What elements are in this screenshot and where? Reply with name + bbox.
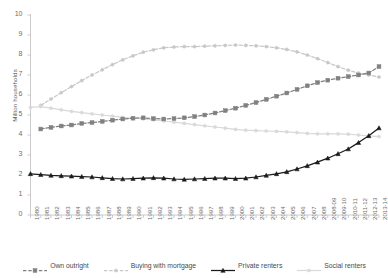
data-point-marker — [172, 45, 175, 48]
data-point-marker — [377, 75, 380, 78]
data-point-marker — [346, 75, 350, 79]
data-point-marker — [193, 115, 197, 119]
chart-legend: Own outrightBuying with mortgagePrivate … — [0, 256, 388, 274]
data-point-marker — [121, 58, 124, 61]
data-point-marker — [213, 111, 217, 115]
data-point-marker — [80, 111, 83, 114]
data-point-marker — [111, 118, 115, 122]
data-point-marker — [336, 132, 339, 135]
data-point-marker — [172, 117, 176, 121]
data-point-marker — [114, 268, 117, 271]
data-point-marker — [213, 44, 216, 47]
data-point-marker — [141, 116, 145, 120]
data-point-marker — [336, 65, 339, 68]
data-point-marker — [183, 122, 186, 125]
series-line — [31, 128, 380, 179]
legend-label: Social renters — [324, 262, 366, 269]
legend-item-social-renters[interactable]: Social renters — [296, 261, 366, 270]
data-point-marker — [49, 107, 52, 110]
data-point-marker — [193, 123, 196, 126]
data-point-marker — [183, 45, 186, 48]
series-buying-with-mortgage — [39, 43, 380, 107]
legend-swatch-icon — [103, 261, 129, 270]
data-point-marker — [131, 54, 134, 57]
data-point-marker — [203, 45, 206, 48]
data-point-marker — [254, 129, 257, 132]
legend-swatch-icon — [296, 261, 322, 270]
legend-item-private-renters[interactable]: Private renters — [210, 261, 282, 270]
data-point-marker — [39, 105, 42, 108]
legend-swatch-icon — [22, 261, 48, 270]
data-point-marker — [244, 44, 247, 47]
plot-area — [0, 0, 388, 278]
data-point-marker — [265, 45, 268, 48]
data-point-marker — [316, 81, 320, 85]
series-own-outright — [39, 65, 381, 131]
data-point-marker — [295, 88, 299, 92]
data-point-marker — [142, 51, 145, 54]
data-point-marker — [275, 46, 278, 49]
data-point-marker — [152, 48, 155, 51]
data-point-marker — [306, 132, 309, 135]
data-point-marker — [326, 132, 329, 135]
data-point-marker — [49, 97, 52, 100]
data-point-marker — [306, 53, 309, 56]
legend-swatch-icon — [210, 261, 236, 270]
data-point-marker — [29, 106, 32, 109]
data-point-marker — [326, 61, 329, 64]
data-point-marker — [377, 126, 381, 130]
data-point-marker — [182, 116, 186, 120]
data-point-marker — [347, 133, 350, 136]
legend-label: Private renters — [238, 262, 282, 269]
data-point-marker — [264, 98, 268, 102]
data-point-marker — [39, 127, 43, 131]
data-point-marker — [295, 50, 298, 53]
data-point-marker — [254, 44, 257, 47]
data-point-marker — [49, 126, 53, 130]
data-point-marker — [33, 268, 37, 272]
data-point-marker — [70, 110, 73, 113]
data-point-marker — [90, 121, 94, 125]
data-point-marker — [213, 125, 216, 128]
data-point-marker — [234, 106, 238, 110]
data-point-marker — [308, 268, 311, 271]
data-point-marker — [285, 91, 289, 95]
legend-label: Own outright — [50, 262, 89, 269]
data-point-marker — [152, 117, 156, 121]
data-point-marker — [377, 65, 381, 69]
data-point-marker — [347, 69, 350, 72]
data-point-marker — [275, 94, 279, 98]
data-point-marker — [203, 124, 206, 127]
data-point-marker — [60, 91, 63, 94]
data-point-marker — [275, 130, 278, 133]
data-point-marker — [90, 73, 93, 76]
data-point-marker — [70, 85, 73, 88]
data-point-marker — [295, 131, 298, 134]
data-point-marker — [111, 115, 114, 118]
data-point-marker — [254, 101, 258, 105]
legend-item-buying-with-mortgage[interactable]: Buying with mortgage — [103, 261, 196, 270]
data-point-marker — [326, 78, 330, 82]
data-point-marker — [70, 123, 74, 127]
data-point-marker — [357, 133, 360, 136]
data-point-marker — [90, 112, 93, 115]
data-point-marker — [100, 120, 104, 124]
data-point-marker — [285, 130, 288, 133]
data-point-marker — [111, 63, 114, 66]
data-point-marker — [244, 129, 247, 132]
data-point-marker — [101, 113, 104, 116]
data-point-marker — [316, 57, 319, 60]
data-point-marker — [316, 132, 319, 135]
data-point-marker — [265, 129, 268, 132]
data-point-marker — [285, 48, 288, 51]
legend-item-own-outright[interactable]: Own outright — [22, 261, 89, 270]
data-point-marker — [223, 109, 227, 113]
data-point-marker — [131, 116, 135, 120]
data-point-marker — [224, 44, 227, 47]
data-point-marker — [357, 73, 361, 77]
data-point-marker — [367, 71, 371, 75]
data-point-marker — [305, 84, 309, 88]
data-point-marker — [234, 43, 237, 46]
data-point-marker — [101, 68, 104, 71]
data-point-marker — [59, 124, 63, 128]
